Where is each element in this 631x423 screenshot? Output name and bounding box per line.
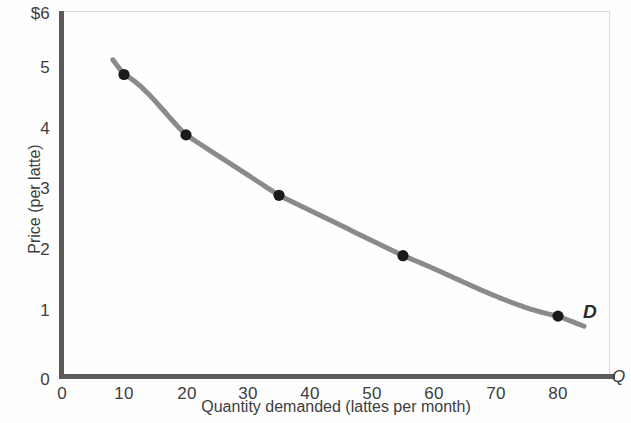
y-tick-label-6: $6 <box>4 4 50 24</box>
plot-area-frame <box>62 11 610 378</box>
x-axis-title: Quantity demanded (lattes per month) <box>62 398 610 416</box>
y-tick-label-1: 1 <box>4 301 50 321</box>
y-tick-label-5: 5 <box>4 58 50 78</box>
y-axis-title: Price (per latte) <box>26 99 44 299</box>
demand-curve-figure: $6 5 4 3 2 1 0 0 10 20 30 40 50 60 70 80… <box>0 0 631 423</box>
y-axis-line <box>59 11 64 379</box>
demand-curve-label: D <box>583 301 597 323</box>
x-axis-line <box>59 374 615 379</box>
x-axis-variable-letter: Q <box>612 367 625 387</box>
